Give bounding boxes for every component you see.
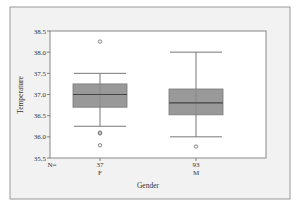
y-tick-label: 36.0 xyxy=(34,133,47,141)
y-axis-title: Temperature xyxy=(16,75,25,113)
boxplot-chart: 35.536.036.537.037.538.038.5 37F93M Temp… xyxy=(0,0,295,209)
y-tick-label: 36.5 xyxy=(34,112,47,120)
y-tick-label: 37.5 xyxy=(34,70,47,78)
x-tick-label: F xyxy=(98,169,102,177)
x-tick-label: M xyxy=(193,169,200,177)
x-axis-title: Gender xyxy=(137,181,160,190)
y-tick-label: 35.5 xyxy=(34,155,47,163)
y-tick-label: 38.5 xyxy=(34,28,47,36)
group-count: 93 xyxy=(193,161,201,169)
y-tick-label: 38.0 xyxy=(34,49,47,57)
y-tick-label: 37.0 xyxy=(34,91,47,99)
group-count: 37 xyxy=(97,161,105,169)
n-label: N= xyxy=(47,161,56,169)
